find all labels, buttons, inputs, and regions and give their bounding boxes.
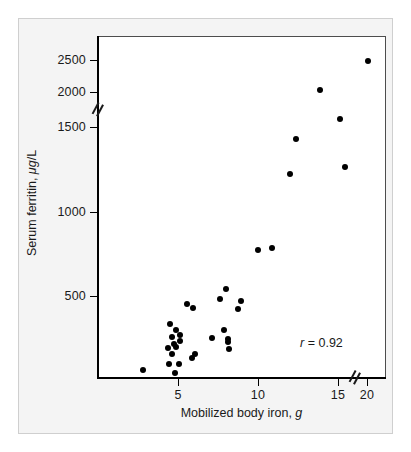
y-tick-500 [90, 296, 97, 297]
y-tick-2500 [90, 60, 97, 61]
scatter-point [140, 367, 146, 373]
y-tick-1000 [90, 212, 97, 213]
correlation-operator: = [308, 336, 315, 350]
scatter-point [293, 136, 299, 142]
x-axis-label-text: Mobilized body iron, [181, 406, 292, 420]
x-axis-label-unit-italic: g [295, 406, 302, 420]
x-axis-label: Mobilized body iron, g [97, 406, 386, 420]
scatter-point [365, 58, 371, 64]
y-tick-label-500: 500 [42, 289, 86, 303]
correlation-annotation: r = 0.92 [300, 336, 343, 350]
y-axis-label: Serum ferritin, μg/L [25, 108, 39, 298]
scatter-point [169, 351, 175, 357]
x-tick-15 [338, 379, 339, 386]
y-tick-2000 [90, 92, 97, 93]
scatter-point [209, 335, 215, 341]
y-tick-label-1000: 1000 [42, 205, 86, 219]
x-axis-spine [97, 377, 386, 379]
correlation-symbol: r [300, 336, 304, 350]
scatter-plot-figure: 5001000150020002500 5101520 Serum ferrit… [0, 0, 411, 452]
scatter-point [176, 361, 182, 367]
scatter-point [337, 116, 343, 122]
x-tick-label-10: 10 [238, 388, 278, 402]
scatter-point [169, 334, 175, 340]
x-tick-label-5: 5 [158, 388, 198, 402]
x-tick-10 [258, 379, 259, 386]
y-tick-label-2500: 2500 [42, 53, 86, 67]
scatter-point [221, 327, 227, 333]
scatter-point [255, 247, 261, 253]
scatter-point [217, 296, 223, 302]
plot-canvas [97, 37, 385, 378]
scatter-point [184, 301, 190, 307]
y-tick-label-2000: 2000 [42, 85, 86, 99]
x-tick-5 [178, 379, 179, 386]
x-tick-label-20: 20 [347, 388, 387, 402]
y-axis-spine [97, 36, 99, 379]
correlation-value: 0.92 [318, 336, 342, 350]
y-axis-label-text-1: Serum ferritin, [25, 174, 39, 256]
scatter-point [287, 171, 293, 177]
axis-top-spine [97, 36, 386, 37]
scatter-point [342, 164, 348, 170]
y-axis-label-text-2: /L [25, 150, 39, 160]
y-tick-1500 [90, 127, 97, 128]
axis-right-spine [385, 36, 386, 379]
scatter-point [165, 345, 171, 351]
scatter-point [177, 338, 183, 344]
scatter-point [192, 351, 198, 357]
scatter-point [167, 321, 173, 327]
y-axis-label-unit-italic: μg [25, 160, 39, 174]
scatter-point [190, 305, 196, 311]
x-tick-20 [367, 379, 368, 386]
y-tick-label-1500: 1500 [42, 120, 86, 134]
